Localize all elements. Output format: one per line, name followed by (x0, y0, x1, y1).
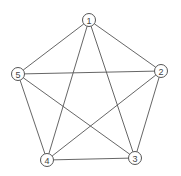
k5-graph-diagram: 12345 (0, 0, 181, 176)
graph-canvas: 12345 (0, 0, 181, 176)
edge-2-3 (137, 77, 159, 152)
edge-1-4 (49, 26, 87, 154)
edge-1-2 (94, 24, 155, 67)
node-label: 2 (158, 67, 163, 77)
node-3: 3 (129, 152, 142, 165)
node-label: 3 (132, 154, 137, 164)
nodes-layer: 12345 (12, 14, 168, 167)
edge-3-4 (53, 158, 128, 160)
edge-3-5 (23, 78, 129, 154)
edges-layer (20, 24, 159, 160)
edge-2-5 (24, 71, 154, 74)
edge-1-3 (91, 26, 133, 152)
node-4: 4 (41, 154, 54, 167)
node-label: 4 (44, 156, 49, 166)
node-5: 5 (12, 68, 25, 81)
node-2: 2 (155, 65, 168, 78)
edge-4-5 (20, 80, 45, 154)
node-label: 1 (86, 16, 91, 26)
edge-1-5 (23, 24, 84, 70)
edge-2-4 (52, 75, 156, 156)
node-label: 5 (15, 70, 20, 80)
node-1: 1 (83, 14, 96, 27)
